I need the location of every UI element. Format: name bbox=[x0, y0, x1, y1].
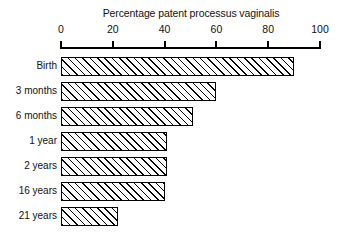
bar bbox=[61, 132, 167, 151]
x-tick-mark bbox=[215, 41, 217, 48]
bar-row: Birth bbox=[0, 56, 344, 81]
category-label: 2 years bbox=[24, 160, 57, 171]
category-label: 16 years bbox=[19, 185, 57, 196]
x-tick-mark bbox=[60, 41, 62, 49]
bar-row: 1 year bbox=[0, 131, 344, 156]
category-label: Birth bbox=[36, 60, 57, 71]
x-tick-mark bbox=[164, 41, 166, 48]
x-tick-label: 40 bbox=[159, 23, 171, 35]
bar bbox=[61, 57, 294, 76]
x-tick-label: 20 bbox=[107, 23, 119, 35]
x-tick-label: 0 bbox=[58, 23, 64, 35]
bar bbox=[61, 182, 165, 201]
bar-chart: Percentage patent processus vaginalis 02… bbox=[0, 0, 344, 240]
bar bbox=[61, 107, 193, 126]
axis-line bbox=[61, 47, 320, 49]
bar bbox=[61, 207, 118, 226]
bar-row: 21 years bbox=[0, 206, 344, 231]
x-tick-mark bbox=[267, 41, 269, 48]
x-tick-mark bbox=[319, 41, 321, 49]
category-label: 21 years bbox=[19, 210, 57, 221]
bar-row: 16 years bbox=[0, 181, 344, 206]
x-tick-mark bbox=[112, 41, 114, 48]
bar bbox=[61, 82, 216, 101]
x-axis: 020406080100 bbox=[0, 0, 344, 55]
plot-area: Birth3 months6 months1 year2 years16 yea… bbox=[0, 56, 344, 240]
bar-row: 6 months bbox=[0, 106, 344, 131]
category-label: 3 months bbox=[16, 85, 57, 96]
category-label: 6 months bbox=[16, 110, 57, 121]
x-tick-label: 60 bbox=[211, 23, 223, 35]
bar bbox=[61, 157, 167, 176]
x-tick-label: 80 bbox=[262, 23, 274, 35]
category-label: 1 year bbox=[29, 135, 57, 146]
x-tick-label: 100 bbox=[311, 23, 329, 35]
bar-row: 2 years bbox=[0, 156, 344, 181]
bar-row: 3 months bbox=[0, 81, 344, 106]
